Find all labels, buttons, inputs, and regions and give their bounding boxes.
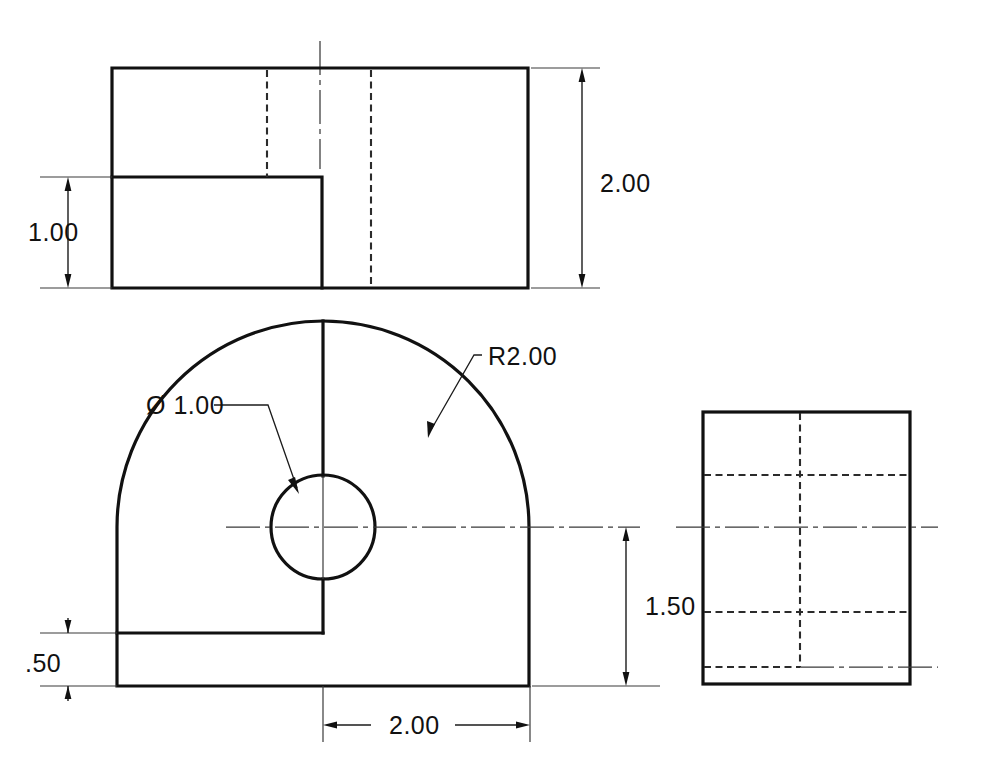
leader-line-radius	[431, 355, 482, 430]
arrowhead-down	[579, 274, 586, 288]
right-view-outline	[703, 412, 910, 684]
dim-text-front-width: 2.00	[389, 711, 440, 739]
dim-text-front-height: 1.50	[645, 592, 696, 620]
arrowhead-front-down	[623, 672, 630, 686]
top-view-group	[112, 41, 528, 288]
arrowhead-radius-leader	[427, 421, 435, 438]
arrowhead-up	[579, 68, 586, 82]
leader-line-hole	[214, 405, 297, 488]
dim-text-hole-diameter: Ø 1.00	[146, 391, 224, 419]
arrowhead-base-down	[65, 620, 72, 633]
right-side-view-group	[676, 412, 938, 684]
front-view-group	[117, 321, 640, 742]
dimension-front-width: 2.00	[323, 686, 530, 742]
dim-text-step-height: 1.00	[28, 218, 79, 246]
arrowhead-width-left	[323, 722, 337, 729]
dimension-front-base-height: .50	[25, 618, 117, 701]
leader-arc-radius: R2.00	[427, 342, 557, 438]
dimension-top-step-height: 1.00	[28, 177, 112, 288]
arrowhead-step-down	[65, 274, 72, 288]
dim-text-top-height: 2.00	[600, 169, 651, 197]
cad-canvas: 2.00 1.00	[0, 0, 990, 778]
drawing-sheet: 2.00 1.00	[0, 0, 990, 778]
arrowhead-base-up	[65, 686, 72, 699]
arrowhead-width-right	[516, 722, 530, 729]
dim-text-front-base-height: .50	[25, 649, 61, 677]
top-view-step-edge	[112, 177, 322, 288]
dimension-front-height: 1.50	[532, 527, 696, 686]
arrowhead-front-up	[623, 527, 630, 541]
arrowhead-step-up	[65, 177, 72, 191]
dimension-top-height: 2.00	[531, 68, 651, 288]
leader-hole-diameter: Ø 1.00	[146, 391, 299, 494]
dim-text-arc-radius: R2.00	[488, 342, 557, 370]
